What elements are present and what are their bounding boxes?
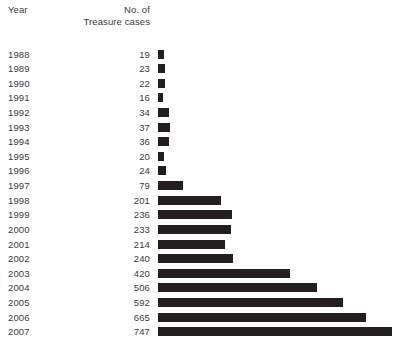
row-value-label: 36 — [0, 135, 150, 148]
row-value-label: 420 — [0, 267, 150, 280]
table-row: 199234 — [0, 106, 398, 121]
row-bar — [158, 50, 164, 59]
row-value-label: 233 — [0, 223, 150, 236]
row-bar — [158, 93, 163, 102]
row-value-label: 240 — [0, 252, 150, 265]
table-row: 198819 — [0, 48, 398, 63]
table-row: 199520 — [0, 150, 398, 165]
row-value-label: 16 — [0, 91, 150, 104]
table-row: 2005592 — [0, 296, 398, 311]
table-row: 2004506 — [0, 281, 398, 296]
row-bar — [158, 269, 290, 278]
chart-rows: 1988191989231990221991161992341993371994… — [0, 0, 398, 347]
row-bar — [158, 225, 231, 234]
table-row: 199022 — [0, 77, 398, 92]
row-bar — [158, 152, 164, 161]
row-value-label: 22 — [0, 77, 150, 90]
row-bar — [158, 108, 169, 117]
row-bar — [158, 123, 170, 132]
row-value-label: 19 — [0, 48, 150, 61]
treasure-cases-bar-chart: Year No. of Treasure cases 1988191989231… — [0, 0, 398, 347]
table-row: 199436 — [0, 135, 398, 150]
row-value-label: 747 — [0, 325, 150, 338]
row-bar — [158, 298, 343, 307]
row-value-label: 23 — [0, 62, 150, 75]
table-row: 2006665 — [0, 311, 398, 326]
row-value-label: 665 — [0, 311, 150, 324]
row-bar — [158, 254, 233, 263]
row-bar — [158, 327, 392, 336]
row-value-label: 24 — [0, 164, 150, 177]
row-value-label: 79 — [0, 179, 150, 192]
row-bar — [158, 64, 165, 73]
table-row: 2002240 — [0, 252, 398, 267]
row-bar — [158, 210, 232, 219]
row-bar — [158, 283, 317, 292]
row-value-label: 20 — [0, 150, 150, 163]
table-row: 2001214 — [0, 238, 398, 253]
table-row: 2000233 — [0, 223, 398, 238]
row-bar — [158, 240, 225, 249]
table-row: 199116 — [0, 91, 398, 106]
row-value-label: 506 — [0, 281, 150, 294]
table-row: 199624 — [0, 164, 398, 179]
row-value-label: 37 — [0, 121, 150, 134]
row-bar — [158, 79, 165, 88]
row-bar — [158, 313, 366, 322]
row-value-label: 201 — [0, 194, 150, 207]
table-row: 199779 — [0, 179, 398, 194]
row-value-label: 34 — [0, 106, 150, 119]
table-row: 1998201 — [0, 194, 398, 209]
row-value-label: 214 — [0, 238, 150, 251]
row-bar — [158, 166, 166, 175]
table-row: 2003420 — [0, 267, 398, 282]
table-row: 198923 — [0, 62, 398, 77]
row-value-label: 236 — [0, 208, 150, 221]
row-bar — [158, 181, 183, 190]
row-bar — [158, 196, 221, 205]
table-row: 2007747 — [0, 325, 398, 340]
table-row: 1999236 — [0, 208, 398, 223]
table-row: 199337 — [0, 121, 398, 136]
row-bar — [158, 137, 169, 146]
row-value-label: 592 — [0, 296, 150, 309]
